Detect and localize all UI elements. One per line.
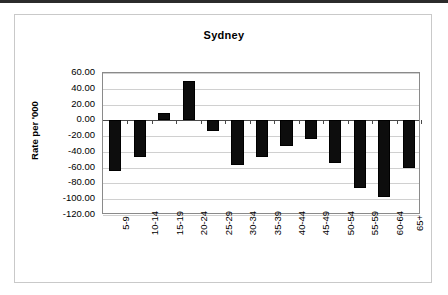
axis-tick-mark — [152, 120, 153, 124]
axis-tick-mark — [421, 120, 422, 124]
top-edge-band — [0, 0, 448, 3]
axis-tick-mark — [201, 120, 202, 124]
bar — [109, 120, 121, 170]
axis-tick-mark — [299, 120, 300, 124]
x-tick-label: 50-54 — [346, 211, 356, 235]
bar — [183, 81, 195, 120]
x-tick-label: 55-59 — [371, 211, 381, 235]
x-tick-label: 30-34 — [248, 211, 258, 235]
axis-tick-mark — [176, 120, 177, 124]
axis-tick-mark — [348, 120, 349, 124]
chart-frame: Sydney Rate per '000 60.0040.0020.000.00… — [14, 14, 432, 283]
x-axis-tick-labels: 5-910-1415-1920-2425-2930-3435-3940-4445… — [102, 215, 420, 281]
plot-area — [102, 72, 420, 214]
y-tick-label: -60.00 — [68, 162, 95, 172]
axis-tick-mark — [225, 120, 226, 124]
bar — [329, 120, 341, 163]
y-tick-label: -40.00 — [68, 146, 95, 156]
x-tick-label: 25-29 — [224, 211, 234, 235]
y-tick-label: 20.00 — [71, 99, 95, 109]
axis-tick-mark — [274, 120, 275, 124]
x-tick-label: 5-9 — [121, 216, 131, 230]
x-tick-label: 45-49 — [322, 211, 332, 235]
x-tick-label: 65+ — [415, 215, 425, 231]
x-tick-label: 10-14 — [150, 211, 160, 235]
bar — [378, 120, 390, 197]
bar — [207, 120, 219, 131]
bar — [305, 120, 317, 139]
bar — [134, 120, 146, 157]
bar — [403, 120, 415, 168]
y-tick-label: 0.00 — [77, 115, 96, 125]
axis-tick-mark — [323, 120, 324, 124]
y-tick-label: -120.00 — [63, 209, 95, 219]
x-tick-label: 20-24 — [199, 211, 209, 235]
y-tick-label: -20.00 — [68, 130, 95, 140]
y-tick-label: -100.00 — [63, 193, 95, 203]
axis-tick-mark — [127, 120, 128, 124]
y-tick-label: -80.00 — [68, 178, 95, 188]
bar — [354, 120, 366, 188]
bar — [280, 120, 292, 146]
x-tick-label: 40-44 — [297, 211, 307, 235]
bars-layer — [103, 73, 419, 213]
x-tick-label: 15-19 — [175, 211, 185, 235]
bar — [158, 113, 170, 120]
x-tick-label: 60-64 — [395, 211, 405, 235]
chart-title: Sydney — [15, 29, 433, 41]
x-tick-label: 35-39 — [273, 211, 283, 235]
axis-tick-mark — [372, 120, 373, 124]
bar — [256, 120, 268, 157]
axis-tick-mark — [397, 120, 398, 124]
y-axis-tick-labels: 60.0040.0020.000.00-20.00-40.00-60.00-80… — [15, 72, 99, 214]
axis-tick-mark — [250, 120, 251, 124]
bar — [231, 120, 243, 165]
y-tick-label: 40.00 — [71, 83, 95, 93]
y-tick-label: 60.00 — [71, 67, 95, 77]
